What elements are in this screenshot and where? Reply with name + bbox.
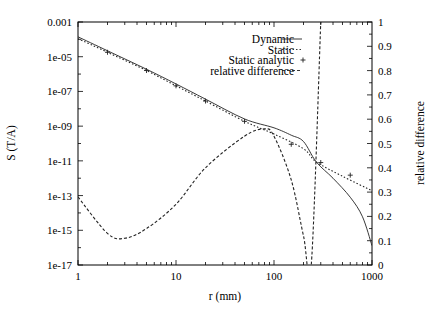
y2-tick-label: 0 [378,259,384,271]
static-analytic-marker [174,83,179,88]
static-analytic-marker [348,173,353,178]
tick-labels: 11010010000.0011e-051e-071e-091e-111e-13… [47,16,392,282]
y-tick-label: 1e-07 [47,85,73,97]
y-tick-label: 1e-05 [47,51,73,63]
y-tick-label: 1e-09 [47,120,73,132]
y-tick-label: 1e-15 [47,224,73,236]
axis-ticks [78,22,372,265]
legend: DynamicStaticStatic analyticrelative dif… [210,33,305,77]
plot-area-border [78,22,372,265]
y2-axis-label: relative difference [414,101,426,185]
y-tick-label: 1e-17 [47,259,73,271]
y2-tick-label: 0.7 [378,89,392,101]
y2-tick-label: 0.8 [378,65,392,77]
static-analytic-marker [105,50,110,55]
y2-tick-label: 0.5 [378,138,392,150]
y-axis-label: S (T/A) [5,125,18,161]
y2-tick-label: 1 [378,16,384,28]
x-tick-label: 1 [75,270,81,282]
y2-tick-label: 0.2 [378,210,392,222]
y2-tick-label: 0.4 [378,162,392,174]
chart: 11010010000.0011e-051e-071e-091e-111e-13… [0,0,435,316]
series-layer [78,22,372,277]
y2-tick-label: 0.3 [378,186,392,198]
legend-label: relative difference [210,65,294,77]
y-tick-label: 1e-11 [47,155,72,167]
x-tick-label: 100 [266,270,283,282]
x-tick-label: 10 [171,270,183,282]
y-tick-label: 0.001 [47,16,72,28]
y2-tick-label: 0.6 [378,113,392,125]
plot-frame [78,22,372,265]
series-static [78,39,372,191]
x-axis-label: r (mm) [209,290,241,303]
legend-plus-icon [301,58,306,63]
y-tick-label: 1e-13 [47,190,73,202]
x-tick-label: 1000 [361,270,384,282]
static-analytic-marker [203,99,208,104]
y2-tick-label: 0.9 [378,40,392,52]
y2-tick-label: 0.1 [378,235,392,247]
